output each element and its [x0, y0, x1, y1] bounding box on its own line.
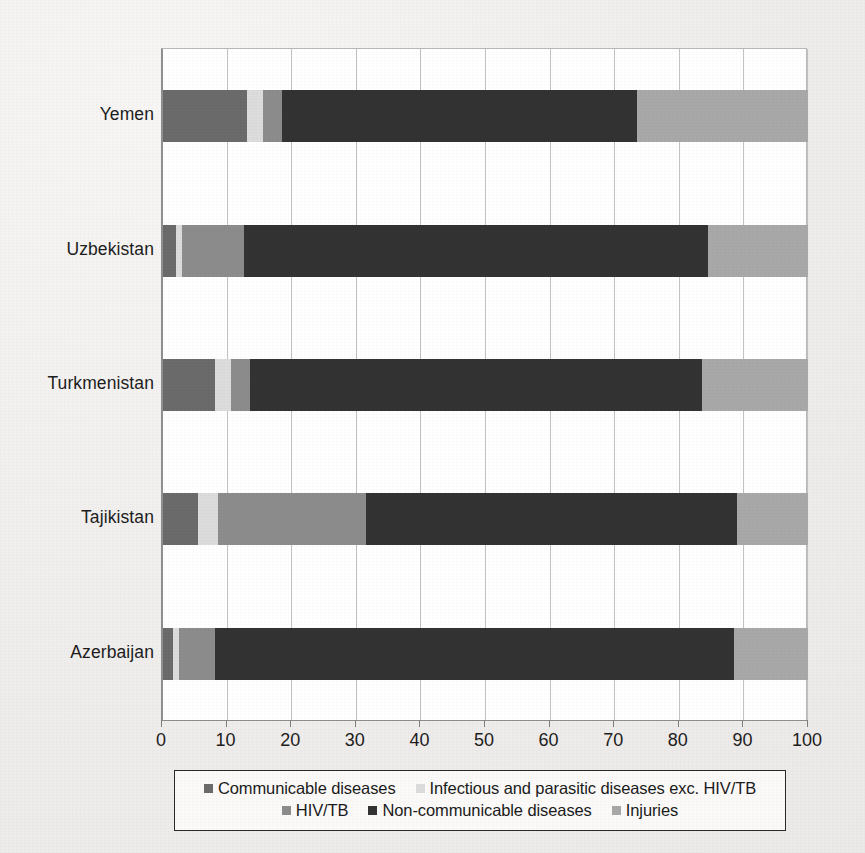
y-axis-label-azerbaijan: Azerbaijan [28, 642, 154, 663]
bar-segment-yemen-hiv-tb[interactable] [263, 90, 282, 142]
y-axis-label-yemen: Yemen [28, 104, 154, 125]
plot-area [161, 48, 807, 720]
x-tick-label-50: 50 [474, 730, 494, 751]
bar-segment-turkmenistan-injuries[interactable] [702, 359, 808, 411]
legend-swatch-icon [612, 806, 621, 815]
x-tick-mark-80 [678, 720, 679, 727]
legend-swatch-icon [416, 784, 425, 793]
chart-legend: Communicable diseasesInfectious and para… [174, 770, 786, 831]
bar-segment-yemen-communicable-diseases[interactable] [163, 90, 247, 142]
x-tick-label-30: 30 [345, 730, 365, 751]
stacked-bar-tajikistan[interactable] [163, 493, 808, 545]
bar-segment-tajikistan-hiv-tb[interactable] [218, 493, 366, 545]
x-tick-mark-60 [549, 720, 550, 727]
x-tick-label-60: 60 [539, 730, 559, 751]
bar-segment-tajikistan-communicable-diseases[interactable] [163, 493, 198, 545]
x-tick-label-80: 80 [668, 730, 688, 751]
legend-swatch-icon [282, 806, 291, 815]
x-tick-mark-0 [161, 720, 162, 727]
y-axis-labels: YemenUzbekistanTurkmenistanTajikistanAze… [30, 48, 154, 720]
legend-label: Non-communicable diseases [382, 800, 591, 822]
stacked-bar-turkmenistan[interactable] [163, 359, 808, 411]
x-tick-label-90: 90 [732, 730, 752, 751]
x-tick-label-100: 100 [792, 730, 822, 751]
bar-segment-tajikistan-injuries[interactable] [737, 493, 808, 545]
legend-row-1: Communicable diseasesInfectious and para… [187, 778, 773, 800]
legend-item-injuries[interactable]: Injuries [612, 800, 678, 822]
x-tick-mark-70 [613, 720, 614, 727]
stacked-bar-uzbekistan[interactable] [163, 225, 808, 277]
stacked-bar-azerbaijan[interactable] [163, 628, 808, 680]
stacked-bar-yemen[interactable] [163, 90, 808, 142]
bar-segment-uzbekistan-communicable-diseases[interactable] [163, 225, 176, 277]
legend-label: HIV/TB [296, 800, 349, 822]
x-tick-mark-40 [419, 720, 420, 727]
x-tick-mark-100 [807, 720, 808, 727]
bar-segment-tajikistan-infectious-and-parasitic-diseases-exc-hiv-tb[interactable] [198, 493, 217, 545]
legend-item-non-communicable-diseases[interactable]: Non-communicable diseases [368, 800, 591, 822]
bar-segment-tajikistan-non-communicable-diseases[interactable] [366, 493, 737, 545]
chart-figure: YemenUzbekistanTurkmenistanTajikistanAze… [30, 24, 835, 814]
x-tick-label-20: 20 [280, 730, 300, 751]
bar-segment-azerbaijan-injuries[interactable] [734, 628, 808, 680]
y-axis-label-turkmenistan: Turkmenistan [28, 373, 154, 394]
bar-row-uzbekistan [162, 225, 806, 277]
bar-row-tajikistan [162, 493, 806, 545]
x-tick-label-10: 10 [216, 730, 236, 751]
legend-swatch-icon [368, 806, 377, 815]
legend-item-communicable-diseases[interactable]: Communicable diseases [204, 778, 396, 800]
x-tick-mark-10 [226, 720, 227, 727]
legend-label: Infectious and parasitic diseases exc. H… [430, 778, 757, 800]
x-tick-mark-30 [355, 720, 356, 727]
bar-segment-uzbekistan-non-communicable-diseases[interactable] [244, 225, 708, 277]
bar-segment-turkmenistan-infectious-and-parasitic-diseases-exc-hiv-tb[interactable] [215, 359, 231, 411]
bar-segment-azerbaijan-hiv-tb[interactable] [179, 628, 214, 680]
legend-row-2: HIV/TBNon-communicable diseasesInjuries [187, 800, 773, 822]
legend-item-infectious-and-parasitic-diseases-exc-hiv-tb[interactable]: Infectious and parasitic diseases exc. H… [416, 778, 757, 800]
bar-segment-azerbaijan-communicable-diseases[interactable] [163, 628, 173, 680]
x-tick-mark-90 [742, 720, 743, 727]
bar-row-azerbaijan [162, 628, 806, 680]
bar-segment-turkmenistan-hiv-tb[interactable] [231, 359, 250, 411]
bar-segment-uzbekistan-hiv-tb[interactable] [182, 225, 243, 277]
bar-segment-yemen-infectious-and-parasitic-diseases-exc-hiv-tb[interactable] [247, 90, 263, 142]
legend-label: Injuries [626, 800, 678, 822]
bar-row-yemen [162, 90, 806, 142]
legend-swatch-icon [204, 784, 213, 793]
x-tick-label-0: 0 [156, 730, 166, 751]
x-tick-label-40: 40 [409, 730, 429, 751]
bar-segment-uzbekistan-injuries[interactable] [708, 225, 808, 277]
bar-segment-azerbaijan-non-communicable-diseases[interactable] [215, 628, 734, 680]
legend-label: Communicable diseases [218, 778, 396, 800]
bar-segment-turkmenistan-non-communicable-diseases[interactable] [250, 359, 702, 411]
x-tick-mark-20 [290, 720, 291, 727]
x-axis-tick-labels: 0102030405060708090100 [161, 730, 807, 758]
bar-segment-yemen-non-communicable-diseases[interactable] [282, 90, 637, 142]
bar-segment-turkmenistan-communicable-diseases[interactable] [163, 359, 215, 411]
y-axis-label-tajikistan: Tajikistan [28, 507, 154, 528]
y-axis-label-uzbekistan: Uzbekistan [28, 239, 154, 260]
legend-item-hiv-tb[interactable]: HIV/TB [282, 800, 349, 822]
x-tick-mark-50 [484, 720, 485, 727]
bar-row-turkmenistan [162, 359, 806, 411]
bar-segment-yemen-injuries[interactable] [637, 90, 808, 142]
x-tick-label-70: 70 [603, 730, 623, 751]
